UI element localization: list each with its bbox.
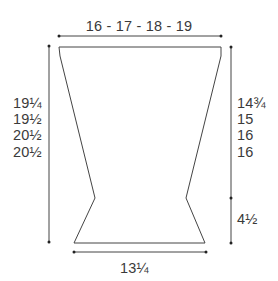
left-length-labels: 19¼ 19½ 20½ 20½ [13,95,42,160]
right-upper-label: 14¾ [237,95,266,111]
left-length-label: 20½ [13,144,42,160]
left-length-dimension [48,45,51,244]
right-lower-label: 4½ [237,211,258,227]
left-length-label: 20½ [13,127,42,143]
right-upper-label: 16 [237,127,266,143]
top-width-dimension [58,35,223,38]
right-upper-labels: 14¾ 15 16 16 [237,95,266,160]
bottom-width-dimension [73,251,208,254]
left-length-label: 19¼ [13,95,42,111]
right-length-dimension [230,46,233,245]
bottom-width-label: 13¼ [120,260,149,276]
right-upper-label: 15 [237,111,266,127]
left-length-label: 19½ [13,111,42,127]
top-width-label: 16 - 17 - 18 - 19 [0,18,278,34]
panel-outline [59,47,221,243]
right-upper-label: 16 [237,144,266,160]
